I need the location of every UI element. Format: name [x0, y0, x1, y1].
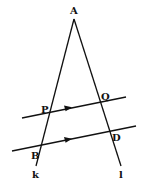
label-d: D: [112, 132, 121, 143]
line-k: [36, 19, 74, 166]
label-a: A: [69, 5, 78, 16]
label-l: l: [119, 169, 123, 180]
line-l: [74, 19, 121, 166]
geometry-diagram: A P Q B D k l: [0, 0, 147, 188]
label-q: Q: [101, 91, 110, 102]
label-k: k: [32, 169, 40, 180]
parallel-arrow-icon: [64, 137, 72, 143]
label-p: P: [41, 104, 49, 115]
parallel-line-pq: [22, 97, 126, 118]
label-b: B: [31, 150, 39, 161]
